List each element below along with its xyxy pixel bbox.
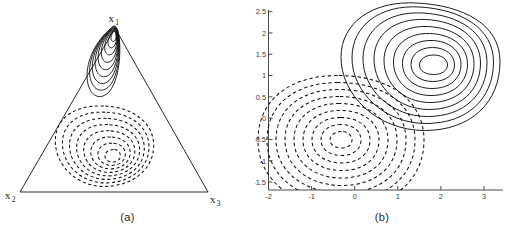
contour-solid-b-2	[411, 48, 455, 82]
contour-solid-b-8	[352, 7, 494, 124]
simplex-triangle-outline	[20, 28, 208, 192]
vertex-label-x3-text: x	[210, 193, 216, 205]
dashed-contour-group-b	[258, 76, 424, 209]
y-ticklabel-2: 1.5	[256, 50, 266, 59]
solid-contour-group-b	[341, 3, 500, 131]
contour-solid-b-6	[374, 19, 481, 109]
contour-dashed-b-6	[285, 97, 397, 186]
contour-dashed-a-2	[98, 143, 125, 165]
panel-b-caption: (b)	[255, 211, 509, 223]
x-ticklabel-3: 1	[396, 192, 400, 201]
dashed-contour-group-a	[55, 106, 153, 186]
x-ticklabel-4: 2	[439, 192, 443, 201]
panel-a-caption: (a)	[0, 211, 255, 223]
contour-dashed-a-3	[91, 137, 130, 169]
contour-solid-b-5	[384, 26, 474, 102]
y-ticklabel-0: 2.5	[256, 7, 266, 16]
y-axis-tick-labels: 2.5 2 1.5 1 0.5 0 -0.5 -1 -1.5	[255, 7, 266, 186]
vertex-label-x3: x 3	[210, 193, 221, 208]
contour-solid-b-9	[341, 3, 500, 131]
x-axis-tick-labels: -2 -1 0 1 2 3	[265, 192, 486, 201]
contour-solid-b-4	[394, 33, 468, 95]
figure-container: x 1 x 2 x 3 (a)	[0, 0, 509, 236]
contour-dashed-b-2	[321, 125, 361, 156]
y-ticklabel-6: -0.5	[255, 135, 266, 144]
y-ticklabel-8: -1.5	[255, 178, 266, 187]
vertex-label-x1-subscript: 1	[115, 18, 119, 27]
vertex-label-x1-text: x	[109, 12, 115, 24]
contour-solid-b-1	[420, 55, 448, 75]
contour-solid-b-7	[363, 13, 487, 117]
y-ticklabel-3: 1	[262, 71, 266, 80]
solid-contour-group-a	[87, 26, 120, 97]
contour-dashed-b-9	[258, 76, 424, 209]
contour-dashed-b-1	[330, 132, 352, 149]
vertex-label-x2-subscript: 2	[12, 195, 16, 204]
vertex-label-x3-subscript: 3	[217, 199, 221, 208]
x-ticklabel-0: -2	[265, 192, 272, 201]
contour-dashed-a-6	[69, 118, 144, 179]
x-ticklabel-1: -1	[308, 192, 315, 201]
x-ticklabel-5: 3	[482, 192, 486, 201]
y-ticklabel-1: 2	[262, 29, 266, 38]
contour-dashed-b-4	[303, 111, 379, 171]
contour-dashed-a-1	[105, 150, 120, 162]
panel-a-svg: x 1 x 2 x 3	[0, 0, 255, 210]
panel-b-svg: 2.5 2 1.5 1 0.5 0 -0.5 -1 -1.5	[255, 0, 509, 210]
panel-a-ternary-contour-plot: x 1 x 2 x 3 (a)	[0, 0, 255, 236]
x-ticklabel-2: 0	[353, 192, 357, 201]
panel-b-cartesian-contour-plot: 2.5 2 1.5 1 0.5 0 -0.5 -1 -1.5	[255, 0, 509, 236]
vertex-label-x2: x 2	[5, 189, 16, 204]
vertex-label-x2-text: x	[5, 189, 11, 201]
contour-dashed-b-8	[267, 83, 415, 201]
vertex-label-x1: x 1	[109, 12, 120, 27]
y-ticklabel-4: 0.5	[256, 93, 266, 102]
